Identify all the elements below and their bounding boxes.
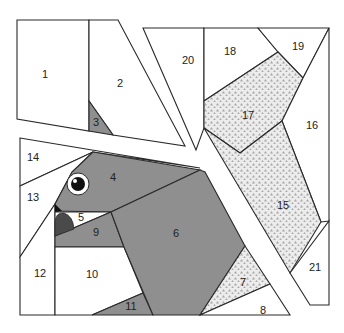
piece-1[interactable] [17, 20, 89, 131]
quilt-pattern: 1 2 3 4 5 6 7 8 9 10 11 12 13 14 15 16 1… [0, 0, 344, 333]
label-9: 9 [93, 226, 99, 238]
eye-icon [67, 173, 89, 195]
label-20: 20 [182, 54, 194, 66]
label-5: 5 [78, 211, 84, 223]
label-6: 6 [173, 227, 179, 239]
label-8: 8 [260, 304, 266, 316]
label-16: 16 [306, 119, 318, 131]
label-12: 12 [34, 267, 46, 279]
label-3: 3 [93, 116, 99, 128]
label-2: 2 [117, 77, 123, 89]
label-11: 11 [125, 300, 136, 312]
label-21: 21 [309, 261, 321, 273]
label-18: 18 [224, 45, 236, 57]
label-15: 15 [277, 199, 289, 211]
label-1: 1 [42, 68, 48, 80]
label-17: 17 [242, 109, 254, 121]
label-4: 4 [110, 171, 116, 183]
label-10: 10 [86, 268, 98, 280]
label-19: 19 [292, 40, 304, 52]
label-7: 7 [240, 276, 246, 288]
label-13: 13 [27, 191, 39, 203]
label-14: 14 [27, 151, 39, 163]
